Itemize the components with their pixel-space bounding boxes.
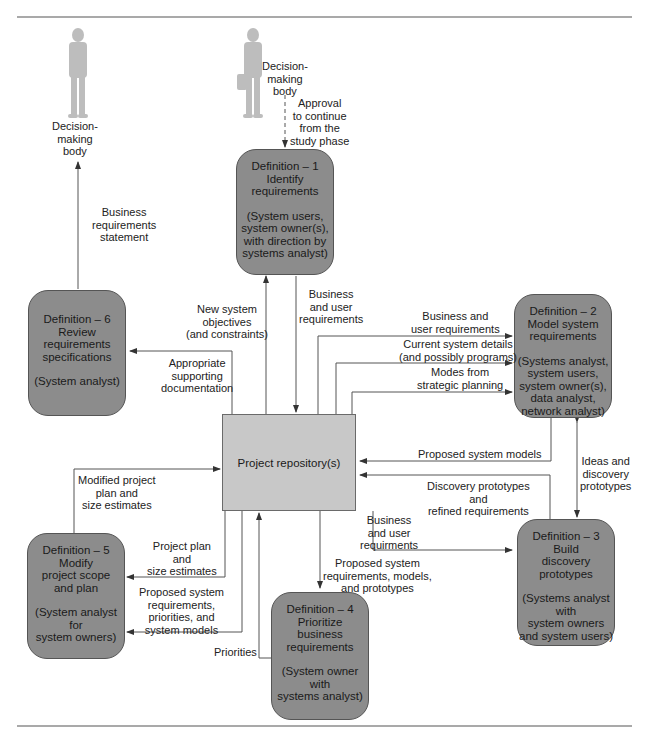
process-definition-3[interactable]: Definition – 3 Build discovery prototype… [517,519,615,646]
process-roles: (Systems analyst with system owners and … [518,592,614,642]
process-roles: (Systems analyst, system users, system o… [515,355,611,418]
flow-label-new-objectives: New system objectives (and constraints) [186,303,268,341]
process-title: Definition – 1 Identify requirements [237,160,333,198]
flow-label-business-user-req-3: Business and user requirments [360,514,418,552]
flow-label-proposed-req-priorities: Proposed system requirements, priorities… [139,586,224,636]
process-definition-5[interactable]: Definition – 5 Modify project scope and … [27,533,125,659]
process-roles: (System users, system owner(s), with dir… [237,210,333,260]
flow-label-modes-strategic: Modes from strategic planning [417,366,503,391]
flow-label-approval: Approval to continue from the study phas… [290,97,349,147]
process-definition-2[interactable]: Definition – 2 Model system requirements… [514,294,612,418]
flow-label-discovery-refined: Discovery prototypes and refined require… [427,480,530,518]
flow-label-proposed-models: Proposed system models [418,448,542,461]
flow-label-current-system: Current system details (and possibly pro… [399,338,517,363]
flow-label-business-user-req-2: Business and user requirements [411,310,500,335]
process-definition-6[interactable]: Definition – 6 Review requirements speci… [28,290,126,416]
process-roles: (System analyst for system owners) [28,606,124,644]
process-title: Definition – 5 Modify project scope and … [28,544,124,594]
flow-label-supporting-doc: Appropriate supporting documentation [161,357,233,395]
process-title: Definition – 6 Review requirements speci… [29,313,125,363]
process-title: Definition – 2 Model system requirements [515,305,611,343]
decision-maker-left-icon [60,28,96,120]
flow-label-business-req-statement: Business requirements statement [92,206,156,244]
flow-label-ideas-prototypes: Ideas and discovery prototypes [580,455,631,493]
flow-label-business-user-req-1: Business and user requirements [299,288,363,326]
decision-body-top-label: Decision- making body [262,60,308,98]
process-roles: (System owner with systems analyst) [272,665,368,703]
process-definition-4[interactable]: Definition – 4 Prioritize business requi… [271,592,369,720]
flow-label-plan-size: Project plan and size estimates [147,540,217,578]
process-definition-1[interactable]: Definition – 1 Identify requirements (Sy… [236,149,334,275]
decision-body-left-label: Decision- making body [52,120,98,158]
flow-label-proposed-req-models-proto: Proposed system requirements, models, an… [323,557,432,595]
project-repository[interactable]: Project repository(s) [222,414,356,511]
flow-label-modified-plan: Modified project plan and size estimates [78,474,156,512]
process-roles: (System analyst) [29,375,125,388]
process-title: Definition – 3 Build discovery prototype… [518,530,614,580]
flow-label-priorities: Priorities [214,646,257,659]
process-title: Definition – 4 Prioritize business requi… [272,603,368,653]
repository-label: Project repository(s) [238,457,341,469]
